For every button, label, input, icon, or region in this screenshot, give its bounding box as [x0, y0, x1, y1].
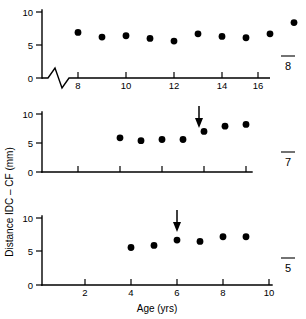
panel-bottom-xlabel-4: 4 — [128, 287, 133, 298]
panel-middle-ylabel-0: 0 — [28, 167, 33, 178]
panel-bottom-arrow-head — [173, 222, 181, 232]
data-point — [195, 30, 202, 37]
data-point — [99, 34, 106, 41]
panel-middle-id-group: 7 — [281, 152, 295, 168]
panel-bottom-id-label: 5 — [285, 262, 291, 274]
panel-bottom-xlabel-6: 6 — [174, 287, 179, 298]
data-point — [138, 137, 145, 144]
panel-bottom-id-group: 5 — [281, 258, 295, 274]
data-point — [117, 134, 124, 141]
panel-top-xlabel-10: 10 — [121, 80, 132, 91]
data-point — [243, 34, 250, 41]
panel-top: 0 5 10 8 10 12 14 16 8 — [22, 7, 297, 92]
panel-bottom-xlabel-2: 2 — [82, 287, 87, 298]
figure-container: Distance IDC – CF (mm) 0 5 10 8 10 12 — [0, 0, 306, 319]
panel-middle-id-label: 7 — [285, 156, 291, 168]
data-point — [75, 29, 82, 36]
data-point — [243, 233, 250, 240]
data-point — [147, 35, 154, 42]
panel-middle-ylabel-5: 5 — [28, 138, 33, 149]
panel-top-ylabel-5: 5 — [28, 40, 33, 51]
data-point — [291, 19, 298, 26]
data-point — [174, 237, 181, 244]
panel-top-xlabel-8: 8 — [75, 80, 80, 91]
data-point — [201, 128, 208, 135]
data-point — [180, 136, 187, 143]
data-point — [123, 32, 130, 39]
data-point — [159, 136, 166, 143]
panel-top-xlabel-14: 14 — [217, 80, 228, 91]
data-point — [220, 233, 227, 240]
panel-top-ylabel-10: 10 — [22, 7, 33, 18]
panel-middle: 0 5 10 7 — [22, 106, 295, 178]
panel-bottom: 0 5 10 2 4 6 8 10 5 — [22, 210, 295, 314]
panel-top-id-group: 8 — [281, 56, 295, 72]
data-point — [222, 123, 229, 130]
data-point — [197, 238, 204, 245]
three-panel-scatter-chart: Distance IDC – CF (mm) 0 5 10 8 10 12 — [0, 0, 306, 319]
data-point — [219, 33, 226, 40]
data-point — [267, 30, 274, 37]
panel-top-ylabel-0: 0 — [28, 73, 33, 84]
panel-middle-data-points — [117, 121, 250, 144]
y-axis-title-group: Distance IDC – CF (mm) — [4, 147, 15, 256]
panel-top-xlabel-16: 16 — [253, 80, 264, 91]
x-axis-title: Age (yrs) — [137, 303, 178, 314]
data-point — [171, 38, 178, 45]
panel-bottom-data-points — [128, 233, 250, 251]
panel-middle-arrow-icon — [195, 106, 203, 128]
data-point — [243, 121, 250, 128]
panel-bottom-xlabel-10: 10 — [264, 287, 275, 298]
panel-top-id-label: 8 — [285, 60, 291, 72]
y-axis-title: Distance IDC – CF (mm) — [4, 147, 15, 256]
panel-middle-ylabel-10: 10 — [22, 109, 33, 120]
data-point — [151, 242, 158, 249]
panel-bottom-arrow-icon — [173, 210, 181, 232]
data-point — [128, 244, 135, 251]
panel-top-xlabel-12: 12 — [169, 80, 180, 91]
panel-middle-arrow-head — [195, 118, 203, 128]
panel-bottom-xlabel-8: 8 — [220, 287, 225, 298]
panel-top-data-points — [75, 19, 298, 44]
panel-bottom-ylabel-10: 10 — [22, 213, 33, 224]
panel-bottom-ylabel-5: 5 — [28, 246, 33, 257]
panel-bottom-ylabel-0: 0 — [28, 280, 33, 291]
